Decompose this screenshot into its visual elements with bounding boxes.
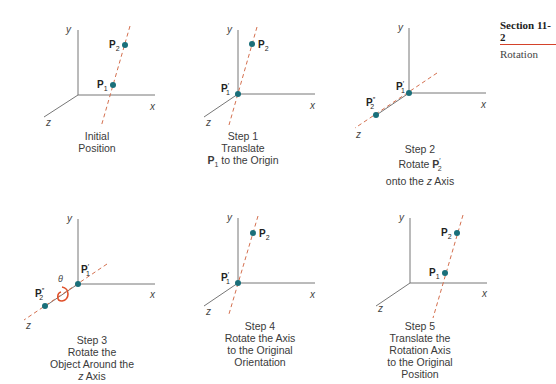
z-label: z [205,306,211,317]
caption-line: Object Around the [32,358,152,370]
caption-line: Step 4 [200,320,320,332]
z-axis [204,283,238,306]
p1-prime-label: P′1 [221,82,230,96]
x-label: x [309,100,316,111]
caption-line: Translate the [360,332,480,344]
y-label: y [398,212,405,223]
x-label: x [480,99,487,110]
z-label: z [45,117,51,128]
point-p1-prime [235,280,241,286]
caption-line: Step 1 [183,130,303,142]
point-p2 [249,41,255,47]
caption-line: Position [37,142,157,154]
caption-line: Rotation Axis [360,344,480,356]
caption-step2: Step 2 Rotate P′2 onto the z Axis [360,143,480,187]
p2-label: P2 [109,39,120,52]
point-p2-double-prime [373,112,379,118]
caption-line: Position [360,368,480,380]
caption-initial: Initial Position [37,130,157,154]
caption-line: Rotate the [32,346,152,358]
z-axis [44,95,78,117]
caption-line: Rotate the Axis [200,332,320,344]
caption-line: Step 3 [32,334,152,346]
x-label: x [481,288,488,299]
caption-line: z Axis [32,370,152,382]
caption-line: Step 2 [360,143,480,155]
panel-step2: y x z P′1 P″2 [355,22,487,140]
point-p1-prime [235,91,241,97]
caption-step5: Step 5 Translate the Rotation Axis to th… [360,320,480,380]
x-label: x [149,289,156,300]
panel-step3: y x z θ P′1 P″2 [24,213,156,331]
caption-line: Rotate P′2 [360,155,480,175]
z-label: z [205,117,211,128]
z-label: z [377,303,383,314]
point-p1 [442,270,448,276]
p2-double-prime-label: P″2 [35,287,45,301]
x-label: x [149,101,156,112]
caption-step4: Step 4 Rotate the Axis to the Original O… [200,320,320,368]
caption-line: Orientation [200,356,320,368]
caption-line: to the Original [200,344,320,356]
z-label: z [25,320,31,331]
p2-label: P2 [441,227,452,240]
y-label: y [66,213,73,224]
panel-step5: y x z P2 P1 [376,212,488,318]
caption-line: Step 5 [360,320,480,332]
p2-label: P2 [259,228,270,241]
y-label: y [226,212,233,223]
z-label: z [355,129,361,140]
point-p2-double-prime [42,303,48,309]
caption-step3: Step 3 Rotate the Object Around the z Ax… [32,334,152,382]
point-p1-prime [75,281,81,287]
caption-line: to the Original [360,356,480,368]
z-axis [204,94,238,117]
y-label: y [226,24,233,35]
p2-label: P2 [258,39,269,52]
point-p2 [250,230,256,236]
z-axis [375,93,409,116]
p1-prime-label: P′1 [81,263,90,277]
panel-initial: y x z P2 P1 [44,24,156,128]
p1-prime-label: P′1 [396,80,405,94]
p1-label: P1 [429,267,440,280]
point-p1-prime [406,90,412,96]
panel-step1: y x z P2 P′1 [204,24,316,128]
caption-line: Translate [183,142,303,154]
y-label: y [397,22,404,33]
panel-step4: y x z P2 P′1 [204,212,316,317]
y-label: y [65,24,72,35]
caption-line: Initial [37,130,157,142]
point-p2 [454,230,460,236]
p2-double-prime-label: P″2 [366,96,376,110]
x-label: x [309,289,316,300]
caption-line: P1 to the Origin [183,154,303,171]
p1-label: P1 [97,79,108,92]
caption-step1: Step 1 Translate P1 to the Origin [183,130,303,171]
caption-line: onto the z Axis [360,175,480,187]
point-p1 [110,82,116,88]
point-p2 [122,42,128,48]
theta-label: θ [58,274,63,284]
p1-prime-label: P′1 [221,271,230,285]
